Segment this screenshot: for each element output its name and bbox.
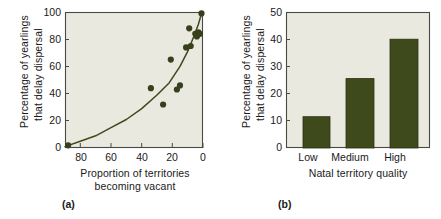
panel-a-ytick-60: 60 [33,60,61,72]
panel-b-xtick-medium: Medium [324,151,376,163]
panel-b-ytick-20: 20 [258,87,282,99]
data-point [65,142,71,148]
panel-b-plot [286,12,430,148]
panel-b-ytick-0: 0 [258,141,282,153]
bar-high [390,39,418,148]
figure-root: Percentage of yearlings that delay dispe… [0,0,441,219]
panel-b-ytick-30: 30 [258,60,282,72]
data-point [188,43,194,49]
data-point [186,25,192,31]
panel-a-x-axis-label-line1: Proportion of territories [80,167,189,179]
panel-a-plot-background [66,13,203,148]
panel-a-xtick-60: 60 [96,151,126,163]
panel-a-xtick-20: 20 [157,151,187,163]
bar-medium [346,79,374,148]
panel-a-xtick-40: 40 [127,151,157,163]
panel-b-xtick-high: High [370,151,420,163]
panel-b-x-axis-label: Natal territory quality [280,167,436,180]
panel-b-ytick-50: 50 [258,6,282,18]
panel-a-plot [65,12,203,148]
panel-b-ytick-40: 40 [258,33,282,45]
panel-a-ytick-80: 80 [33,33,61,45]
panel-b-y-axis-label-2: that delay dispersal [242,20,256,148]
data-point [177,82,183,88]
panel-a-xtick-0: 0 [188,151,218,163]
bar-low [303,117,330,148]
panel-a-ytick-100: 100 [33,6,61,18]
panel-a-x-axis-label-line2: becoming vacant [95,180,176,192]
data-point [160,101,166,107]
panel-a-y-axis-label-2: that delay dispersal [20,20,34,148]
panel-a-x-axis-label: Proportion of territories becoming vacan… [48,167,222,192]
panel-a-ytick-0: 0 [33,141,61,153]
panel-b-ytick-10: 10 [258,114,282,126]
data-point [198,10,204,16]
panel-b-tag: (b) [278,198,291,210]
panel-a-tag: (a) [62,198,75,210]
panel-a-xtick-80: 80 [66,151,96,163]
data-point [168,57,174,63]
panel-a-ytick-40: 40 [33,87,61,99]
data-point [148,85,154,91]
data-point [197,31,203,37]
panel-a-ytick-20: 20 [33,114,61,126]
